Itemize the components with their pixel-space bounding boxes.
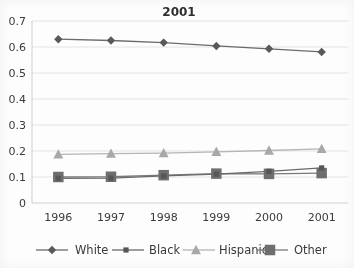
y-tick-label: 0.2 [9,145,27,158]
data-point-marker [265,245,276,256]
x-tick-label: 1997 [97,211,125,224]
chart-title: 2001 [162,5,195,19]
x-axis-tick-labels: 199619971998199920002001 [44,211,335,224]
x-tick-label: 2000 [255,211,283,224]
y-tick-label: 0.5 [9,67,27,80]
y-axis-tick-labels: 0.70.60.50.40.30.20.10 [9,15,27,210]
data-point-marker [123,247,128,252]
y-tick-label: 0.7 [9,15,27,28]
x-tick-label: 1996 [44,211,72,224]
y-tick-label: 0.1 [9,171,27,184]
legend-item-other[interactable]: Other [256,243,327,257]
y-tick-label: 0.3 [9,119,27,132]
legend-label: Other [294,243,327,257]
data-point-marker [108,175,113,180]
data-point-marker [319,165,324,170]
x-tick-label: 2001 [308,211,336,224]
data-point-marker [161,173,166,178]
chart-legend: WhiteBlackHispanicOther [36,243,327,257]
y-tick-label: 0.6 [9,41,27,54]
y-tick-label: 0.4 [9,93,27,106]
legend-item-hispanic[interactable]: Hispanic [183,243,268,257]
data-point-marker [214,172,219,177]
legend-item-white[interactable]: White [36,243,108,257]
x-tick-label: 1998 [150,211,178,224]
legend-label: Black [149,243,180,257]
x-tick-label: 1999 [202,211,230,224]
data-point-marker [56,176,61,181]
line-chart: 2001 0.70.60.50.40.30.20.10 199619971998… [0,0,354,268]
data-point-marker [266,169,271,174]
data-point-marker [48,246,56,254]
legend-label: White [75,243,108,257]
chart-container: 2001 0.70.60.50.40.30.20.10 199619971998… [0,0,354,268]
y-tick-label: 0 [19,197,26,210]
legend-item-black[interactable]: Black [112,243,180,257]
